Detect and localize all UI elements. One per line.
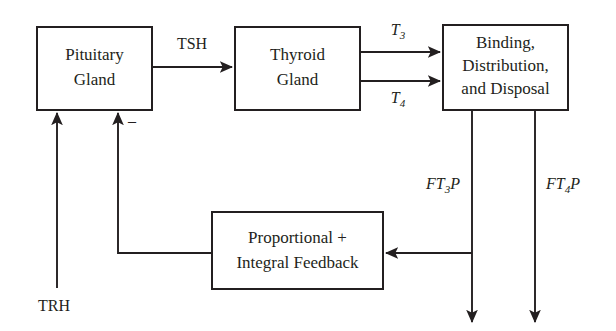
- block-thyroid-gland-label-line1: Thyroid: [270, 45, 325, 64]
- signal-label-ft4p-prefix: FT: [545, 175, 566, 192]
- block-diagram-canvas: Pituitary Gland Thyroid Gland Binding, D…: [0, 0, 616, 331]
- svg-text:FT4P: FT4P: [545, 175, 580, 195]
- signal-label-t4: T4: [391, 89, 406, 109]
- block-binding-label-line1: Binding,: [476, 33, 535, 52]
- svg-text:T4: T4: [391, 89, 406, 109]
- block-pituitary-gland-label-line2: Gland: [74, 70, 116, 89]
- block-binding-label-line2: Distribution,: [462, 56, 548, 75]
- block-binding-label-line3: and Disposal: [461, 79, 550, 98]
- block-thyroid-gland-rect: [235, 27, 360, 110]
- signal-label-ft3p-suffix: P: [449, 175, 460, 192]
- signal-label-ft4p-suffix: P: [569, 175, 580, 192]
- signal-label-trh: TRH: [38, 297, 70, 314]
- thyroid-feedback-diagram: Pituitary Gland Thyroid Gland Binding, D…: [0, 0, 616, 331]
- svg-text:T3: T3: [391, 21, 406, 41]
- block-pituitary-gland-label-line1: Pituitary: [65, 45, 124, 64]
- block-pituitary-gland-rect: [37, 27, 152, 110]
- signal-label-t3-subscript: 3: [399, 29, 406, 41]
- svg-text:FT3P: FT3P: [425, 175, 460, 195]
- signal-label-tsh: TSH: [177, 35, 208, 52]
- connector-feedback-to-pituitary: [118, 113, 212, 253]
- block-thyroid-gland-label-line2: Gland: [277, 70, 319, 89]
- block-pituitary-gland[interactable]: Pituitary Gland: [37, 27, 152, 110]
- block-thyroid-gland[interactable]: Thyroid Gland: [235, 27, 360, 110]
- block-feedback-label-line2: Integral Feedback: [236, 253, 359, 272]
- signal-label-t3: T3: [391, 21, 406, 41]
- signal-label-ft3p-prefix: FT: [425, 175, 446, 192]
- block-binding-distribution-disposal[interactable]: Binding, Distribution, and Disposal: [443, 25, 568, 110]
- block-feedback-rect: [212, 212, 383, 289]
- signal-label-t4-subscript: 4: [400, 97, 406, 109]
- block-feedback-label-line1: Proportional +: [248, 228, 347, 247]
- signal-label-ft4p: FT4P: [545, 175, 580, 195]
- signal-label-ft3p: FT3P: [425, 175, 460, 195]
- negative-feedback-sign: –: [127, 112, 137, 129]
- block-proportional-integral-feedback[interactable]: Proportional + Integral Feedback: [212, 212, 383, 289]
